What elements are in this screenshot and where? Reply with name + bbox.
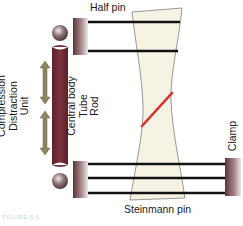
clamp-label: Clamp [227, 116, 239, 156]
half-pin-label: Half pin [90, 2, 126, 13]
clamp-top-left [73, 18, 88, 55]
central-body-line-1: Central body [66, 70, 78, 142]
compression-distraction-label: Compression Distraction Unit [0, 70, 32, 142]
figure-caption: FIGURE 5.5 [2, 214, 40, 220]
distraction-arrow-icon [40, 111, 50, 155]
external-fixator-diagram [0, 0, 243, 226]
central-body-label: Central body Tube Rod [66, 70, 102, 142]
steinmann-pin-label: Steinmann pin [124, 204, 191, 215]
clamp-bottom-left [73, 161, 88, 198]
clamp-right [225, 158, 241, 196]
ball-joint-top [52, 25, 68, 41]
bone [130, 8, 185, 200]
compression-arrow-icon [40, 61, 50, 104]
central-body-line-3: Rod [89, 70, 101, 142]
ball-joint-bottom [52, 173, 68, 189]
compression-line-3: Unit [19, 70, 31, 142]
